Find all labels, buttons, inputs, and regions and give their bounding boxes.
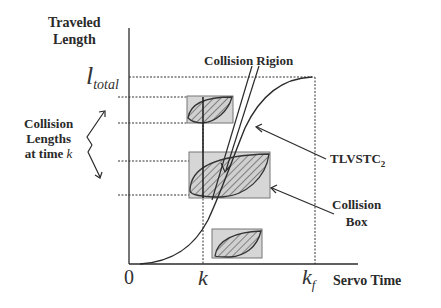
origin-label: 0: [124, 266, 134, 289]
collision-box-label: Collision Box: [332, 196, 381, 230]
k-label: k: [198, 265, 208, 291]
y-axis-label: Traveled Length: [48, 14, 101, 48]
l-total-sub: total: [93, 77, 119, 92]
x-axis-label: Servo Time: [333, 273, 401, 288]
kf-sub: f: [312, 277, 316, 292]
collision-box-line2: Box: [332, 213, 381, 230]
l-total-label: ltotal: [86, 61, 119, 93]
collision-box-upper: [187, 96, 233, 123]
y-axis-label-line1: Traveled: [48, 14, 101, 31]
kf-base: k: [302, 264, 312, 289]
tlvstc-sub: 2: [381, 159, 386, 169]
collision-lengths-line3: at time k: [24, 146, 73, 161]
collision-region-label: Collision Rigion: [204, 53, 293, 68]
collision-box-pointer: [271, 185, 334, 214]
tlvstc-label: TLVSTC2: [330, 151, 385, 172]
collision-box-line1: Collision: [332, 196, 381, 213]
collision-lengths-line2: Lengths: [24, 131, 73, 146]
collision-lengths-label: Collision Lengths at time k: [24, 116, 73, 161]
collision-lengths-line3-var: k: [67, 146, 73, 161]
collision-lengths-line3-prefix: at time: [25, 146, 67, 161]
collision-lengths-arrows: [87, 111, 105, 178]
kf-label: kf: [302, 264, 315, 293]
y-axis-label-line2: Length: [48, 31, 101, 48]
collision-box-lower: [212, 229, 262, 258]
tlvstc-base: TLVSTC: [330, 151, 381, 166]
collision-lengths-line1: Collision: [24, 116, 73, 131]
